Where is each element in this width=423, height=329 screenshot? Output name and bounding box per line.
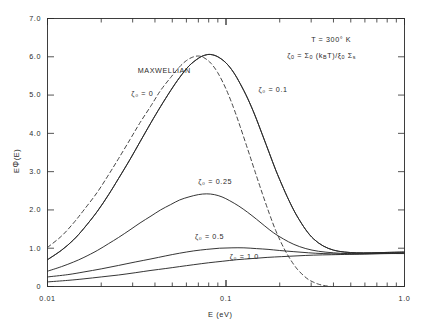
curve-label-zeta-0p5: ζ₀ = 0.5	[195, 232, 224, 241]
plot-canvas	[0, 0, 423, 329]
y-tick-label: 6.0	[8, 52, 41, 61]
curves-layer	[48, 54, 405, 286]
maxwellian-annotation: MAXWELLIAN	[138, 66, 191, 75]
y-axis-title: EΦ(E)	[12, 148, 21, 172]
formula-annotation: ζ0 = Σ0 (kBT)/ξ0 Σs	[287, 51, 356, 60]
figure-container: 01.02.03.04.05.06.07.0 0.010.11.0 EΦ(E) …	[0, 0, 423, 329]
y-tick-label: 5.0	[8, 90, 41, 99]
curve-label-zeta-0: ζ₀ = 0	[131, 89, 153, 98]
y-tick-label: 1.0	[8, 244, 41, 253]
x-tick-label: 1.0	[394, 294, 416, 303]
curve-zeta0-1.0	[48, 254, 405, 282]
y-tick-label: 4.0	[8, 129, 41, 138]
x-tick-label: 0.1	[215, 294, 237, 303]
x-tick-label: 0.01	[37, 294, 59, 303]
curve-zeta0-0.1	[48, 54, 405, 259]
curve-label-zeta-1p0: ζ₀ = 1.0	[230, 252, 259, 261]
y-tick-label: 0	[8, 282, 41, 291]
y-tick-label: 7.0	[8, 14, 41, 23]
y-tick-label: 2.0	[8, 205, 41, 214]
x-axis-title: E (eV)	[208, 310, 233, 319]
curve-label-zeta-0p1: ζ₀ = 0.1	[258, 85, 287, 94]
y-axis-title-text: E	[12, 167, 21, 173]
curve-label-zeta-0p25: ζ₀ = 0.25	[198, 177, 232, 186]
y-axis-title-paren: (E)	[12, 148, 21, 160]
temperature-annotation: T = 300° K	[311, 35, 351, 44]
curve-zeta0-0	[48, 54, 405, 259]
